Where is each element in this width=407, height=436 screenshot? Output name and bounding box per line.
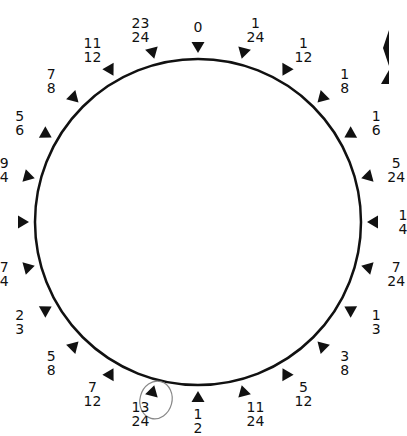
fraction-numerator: 5 [15, 109, 24, 123]
fraction-denominator: 12 [84, 394, 102, 408]
fraction-denominator: 4 [399, 222, 407, 236]
fraction-denominator: 24 [0, 274, 9, 288]
triangle-marker-icon [145, 46, 158, 58]
fraction-numerator: 5 [295, 380, 313, 394]
fraction-label: 512 [295, 380, 313, 408]
fraction-denominator: 8 [340, 81, 349, 95]
fraction-label: 112 [295, 36, 313, 64]
fraction-label: 1724 [0, 260, 9, 288]
fraction-label: 56 [15, 109, 24, 137]
fraction-numerator: 1 [399, 208, 407, 222]
fraction-numerator: 7 [84, 380, 102, 394]
triangle-marker-icon [66, 342, 78, 354]
fraction-label: 0 [194, 20, 203, 34]
fraction-numerator: 17 [0, 260, 9, 274]
triangle-marker-icon [361, 169, 373, 182]
fraction-numerator: 1 [295, 36, 313, 50]
fraction-denominator: 24 [132, 414, 150, 428]
unit-circle [35, 59, 361, 385]
fraction-numerator: 5 [47, 349, 56, 363]
triangle-marker-icon [192, 42, 205, 53]
triangle-marker-icon [39, 126, 52, 137]
triangle-marker-icon [238, 385, 251, 397]
triangle-marker-icon [344, 306, 357, 317]
triangle-marker-icon [318, 342, 330, 354]
fraction-label: 14 [399, 208, 407, 236]
triangle-marker-icon [344, 126, 357, 137]
triangle-marker-icon [145, 385, 158, 397]
tick-markers [18, 42, 378, 402]
fraction-label: 23 [15, 308, 24, 336]
fraction-numerator: 13 [132, 400, 150, 414]
triangle-marker-icon [22, 262, 34, 275]
fraction-numerator: 7 [47, 67, 56, 81]
triangle-marker-icon [361, 262, 373, 275]
fraction-denominator: 24 [247, 414, 265, 428]
fraction-numerator: 5 [387, 156, 405, 170]
fraction-numerator: 1 [372, 109, 381, 123]
fraction-numerator: 23 [132, 16, 150, 30]
fraction-denominator: 24 [247, 30, 265, 44]
fraction-label: 38 [340, 349, 349, 377]
fraction-numerator: 7 [387, 260, 405, 274]
fraction-label: 1924 [0, 156, 9, 184]
fraction-label: 124 [247, 16, 265, 44]
fraction-numerator: 1 [247, 16, 265, 30]
fraction-label: 2324 [132, 16, 150, 44]
triangle-marker-icon [238, 46, 251, 58]
fraction-label: 1324 [132, 400, 150, 428]
edge-triangle-fragment-icon [381, 70, 389, 84]
fraction-denominator: 6 [15, 123, 24, 137]
fraction-numerator: 1 [340, 67, 349, 81]
triangle-marker-icon [66, 90, 78, 102]
fraction-denominator: 24 [0, 170, 9, 184]
fraction-numerator: 1 [372, 308, 381, 322]
fraction-numerator: 2 [15, 308, 24, 322]
fraction-denominator: 2 [194, 421, 203, 435]
triangle-marker-icon [192, 391, 205, 402]
fraction-denominator: 3 [15, 322, 24, 336]
triangle-marker-icon [282, 368, 293, 381]
fraction-label: 712 [84, 380, 102, 408]
fraction-denominator: 12 [295, 394, 313, 408]
fraction-denominator: 12 [84, 50, 102, 64]
triangle-marker-icon [22, 169, 34, 182]
fraction-label: 12 [194, 407, 203, 435]
triangle-marker-icon [318, 90, 330, 102]
fraction-numerator: 11 [247, 400, 265, 414]
fraction-label: 524 [387, 156, 405, 184]
fraction-numerator: 0 [194, 20, 203, 34]
fraction-numerator: 1 [194, 407, 203, 421]
fraction-numerator: 19 [0, 156, 9, 170]
fraction-label: 78 [47, 67, 56, 95]
triangle-marker-icon [102, 63, 113, 76]
triangle-marker-icon [18, 216, 29, 229]
fraction-denominator: 24 [132, 30, 150, 44]
triangle-marker-icon [367, 216, 378, 229]
fraction-denominator: 24 [387, 170, 405, 184]
fraction-label: 1124 [247, 400, 265, 428]
fraction-denominator: 8 [47, 81, 56, 95]
fraction-denominator: 8 [47, 363, 56, 377]
fraction-label: 18 [340, 67, 349, 95]
fraction-label: 16 [372, 109, 381, 137]
fraction-label: 13 [372, 308, 381, 336]
fraction-denominator: 12 [295, 50, 313, 64]
fraction-denominator: 8 [340, 363, 349, 377]
fraction-numerator: 11 [84, 36, 102, 50]
fraction-denominator: 6 [372, 123, 381, 137]
fraction-label: 724 [387, 260, 405, 288]
fraction-numerator: 3 [340, 349, 349, 363]
triangle-marker-icon [282, 63, 293, 76]
fraction-denominator: 3 [372, 322, 381, 336]
fraction-denominator: 24 [387, 274, 405, 288]
edge-triangle-fragment-icon [383, 30, 389, 66]
triangle-marker-icon [39, 306, 52, 317]
fraction-label: 58 [47, 349, 56, 377]
triangle-marker-icon [102, 368, 113, 381]
fraction-label: 1112 [84, 36, 102, 64]
